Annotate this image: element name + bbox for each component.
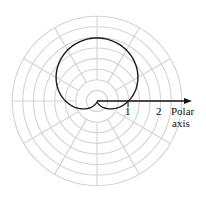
- axis-label-line2: axis: [172, 117, 190, 129]
- grid-spoke: [55, 28, 87, 83]
- grid-spoke: [115, 112, 170, 144]
- grid-spoke: [24, 59, 79, 91]
- polar-diagram: 1 2 Polar axis: [0, 0, 206, 198]
- grid-spoke: [108, 119, 140, 174]
- axis-label-line1: Polar: [171, 105, 195, 117]
- grid-spoke: [108, 28, 140, 83]
- tick-label-2: 2: [156, 105, 162, 117]
- polar-plot-canvas: 1 2 Polar axis: [0, 0, 206, 198]
- grid-spoke: [115, 59, 170, 91]
- tick-label-1: 1: [125, 105, 131, 117]
- grid-spoke: [55, 119, 87, 174]
- arrowhead-icon: [184, 98, 192, 104]
- grid-spoke: [24, 112, 79, 144]
